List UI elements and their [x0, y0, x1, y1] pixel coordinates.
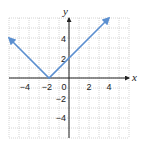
y-tick-label: −2 — [56, 94, 66, 104]
y-axis-label: y — [62, 5, 68, 17]
x-axis-label: x — [131, 71, 137, 83]
x-tick-label: 2 — [86, 82, 91, 92]
graph-canvas: x y −4 −2 0 2 4 4 2 −2 −4 — [0, 0, 142, 142]
x-tick-label: −2 — [42, 82, 52, 92]
x-tick-label: 0 — [61, 82, 66, 92]
absolute-value-graph: x y −4 −2 0 2 4 4 2 −2 −4 — [0, 0, 142, 142]
x-tick-label: 4 — [106, 82, 111, 92]
y-tick-label: −4 — [56, 113, 66, 123]
y-tick-label: 4 — [61, 34, 66, 44]
x-tick-label: −4 — [20, 82, 30, 92]
x-tick-labels: −4 −2 0 2 4 — [20, 82, 112, 92]
